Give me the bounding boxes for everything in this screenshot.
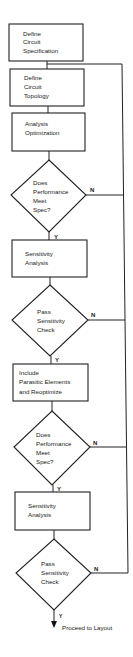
- node-sensitivity-analysis-1: Sensitivity Analysis: [12, 240, 87, 277]
- svg-text:Spec?: Spec?: [33, 206, 51, 213]
- svg-text:Analysis: Analysis: [28, 511, 51, 518]
- svg-text:Define: Define: [23, 30, 41, 37]
- svg-text:Performance: Performance: [33, 188, 69, 195]
- svg-text:Sensitivity: Sensitivity: [28, 502, 57, 509]
- svg-text:Optimization: Optimization: [25, 129, 60, 136]
- no-label: N: [93, 440, 97, 446]
- svg-text:Pass: Pass: [37, 308, 51, 315]
- circuit-design-flowchart: Define Circuit Specification Define Circ…: [0, 0, 133, 657]
- node-include-parasitic-elements: Include Parasitic Elements and Reoptimiz…: [13, 364, 88, 401]
- svg-text:and Reoptimize: and Reoptimize: [19, 388, 63, 395]
- svg-text:Topology: Topology: [24, 92, 50, 99]
- no-label: N: [90, 187, 94, 193]
- svg-text:Check: Check: [41, 578, 59, 585]
- svg-text:Include: Include: [19, 369, 40, 376]
- node-sensitivity-analysis-2: Sensitivity Analysis: [15, 492, 90, 530]
- svg-text:Circuit: Circuit: [24, 83, 42, 90]
- svg-text:Parasitic Elements: Parasitic Elements: [19, 378, 70, 385]
- svg-text:Circuit: Circuit: [23, 38, 41, 45]
- svg-text:Pass: Pass: [41, 560, 55, 567]
- svg-text:Meet: Meet: [33, 198, 47, 204]
- svg-text:Does: Does: [36, 431, 50, 438]
- svg-text:Meet: Meet: [36, 449, 50, 456]
- yes-label: Y: [54, 234, 58, 240]
- yes-label: Y: [59, 613, 63, 619]
- arrow-down-icon: [51, 621, 57, 628]
- yes-label: Y: [55, 357, 59, 363]
- svg-text:Spec?: Spec?: [36, 458, 54, 465]
- node-analysis-optimization: Analysis Optimization: [12, 113, 85, 151]
- svg-text:Sensitivity: Sensitivity: [37, 317, 66, 324]
- yes-label: Y: [57, 486, 61, 492]
- no-label: N: [91, 312, 95, 318]
- decision-performance-meet-spec-1: Does Performance Meet Spec? N Y: [11, 160, 94, 240]
- svg-text:Check: Check: [37, 326, 55, 333]
- decision-pass-sensitivity-check-2: Pass Sensitivity Check N Y: [16, 539, 98, 619]
- svg-text:Sensitivity: Sensitivity: [25, 250, 54, 257]
- no-label: N: [94, 566, 98, 572]
- svg-text:Analysis: Analysis: [25, 120, 48, 127]
- svg-text:Specification: Specification: [23, 47, 59, 54]
- decision-pass-sensitivity-check-1: Pass Sensitivity Check N Y: [12, 285, 95, 363]
- node-define-circuit-topology: Define Circuit Topology: [10, 69, 84, 106]
- svg-text:Does: Does: [33, 179, 47, 186]
- node-define-circuit-specification: Define Circuit Specification: [9, 24, 83, 61]
- svg-text:Define: Define: [24, 74, 42, 81]
- decision-performance-meet-spec-2: Does Performance Meet Spec? N Y: [14, 411, 97, 492]
- svg-text:Performance: Performance: [36, 440, 72, 447]
- svg-text:Analysis: Analysis: [25, 259, 48, 266]
- proceed-to-layout-label: Proceed to Layout: [62, 624, 113, 631]
- svg-text:Sensitivity: Sensitivity: [41, 569, 70, 576]
